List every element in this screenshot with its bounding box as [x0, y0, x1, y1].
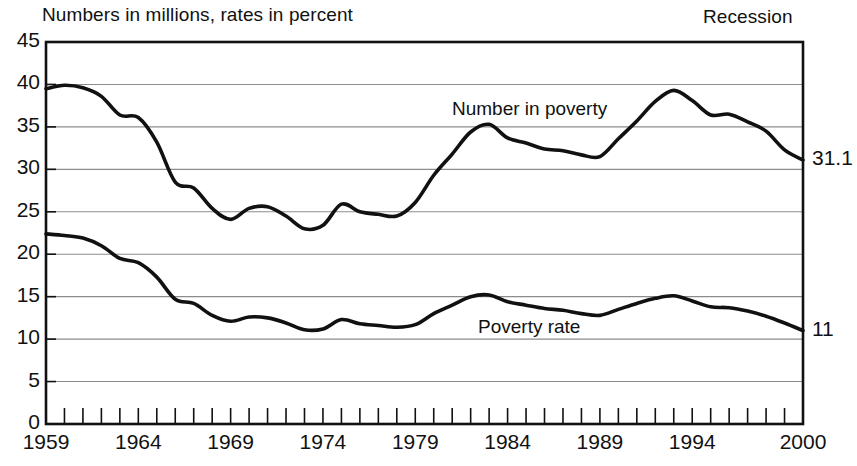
plot-area: [0, 0, 857, 466]
y-axis-tick-label: 5: [2, 368, 40, 392]
x-axis-tick-label: 1959: [20, 430, 72, 454]
chart-subtitle-note: Numbers in millions, rates in percent: [42, 4, 353, 26]
x-axis-tick-label: 1979: [389, 430, 441, 454]
end-value-poverty-rate: 11: [812, 317, 834, 341]
series-label-number-in-poverty: Number in poverty: [452, 98, 607, 120]
x-axis-tick-label: 1964: [112, 430, 164, 454]
x-axis-tick-label: 1984: [482, 430, 534, 454]
y-axis-tick-label: 10: [2, 325, 40, 349]
series-label-poverty-rate: Poverty rate: [478, 316, 580, 338]
x-axis-tick-label: 1969: [205, 430, 257, 454]
y-axis-tick-label: 30: [2, 155, 40, 179]
poverty-chart: Numbers in millions, rates in percent Re…: [0, 0, 857, 466]
end-value-number-in-poverty: 31.1: [812, 146, 853, 170]
y-axis-tick-label: 25: [2, 198, 40, 222]
x-axis-tick-label: 1994: [666, 430, 718, 454]
x-axis-tick-label: 1974: [297, 430, 349, 454]
recession-legend-label: Recession: [703, 6, 793, 28]
line-poverty-rate: [46, 234, 803, 331]
x-axis-tick-label: 2000: [777, 430, 829, 454]
y-axis-tick-label: 20: [2, 240, 40, 264]
y-axis-tick-label: 35: [2, 113, 40, 137]
x-axis-tick-label: 1989: [574, 430, 626, 454]
gridlines: [46, 84, 803, 381]
y-axis-tick-label: 15: [2, 283, 40, 307]
line-number-in-poverty: [46, 85, 803, 229]
y-axis-tick-label: 45: [2, 28, 40, 52]
y-axis-tick-label: 40: [2, 70, 40, 94]
